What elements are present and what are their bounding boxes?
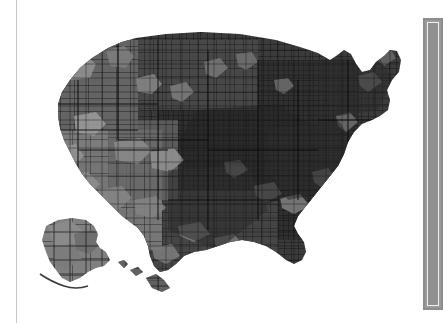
choropleth-map-figure (18, 20, 408, 305)
map-legend-panel-inner (427, 22, 439, 306)
choropleth-map-svg[interactable] (18, 20, 408, 305)
map-legend-panel[interactable] (423, 18, 443, 310)
map-legend-colorbar (429, 24, 437, 304)
page-left-rule (16, 0, 17, 323)
